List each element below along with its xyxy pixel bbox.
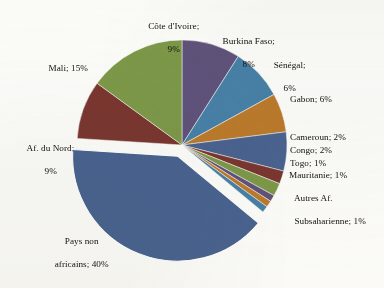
slice-label-mauritanie: Mauritanie; 1% bbox=[289, 170, 384, 181]
slice-label-af-du-nord: Af. du Nord; 9% bbox=[2, 132, 90, 189]
slice-label-mali: Mali; 15% bbox=[2, 63, 88, 74]
slice-label-pays-non-africains-line1: Pays non bbox=[65, 236, 99, 246]
slice-label-autres-af-line2: Subsaharienne; 1% bbox=[294, 216, 366, 226]
slice-label-cote-divoire-value: 9% bbox=[168, 44, 180, 54]
slice-label-togo: Togo; 1% bbox=[290, 158, 384, 169]
slice-label-pays-non-africains: Pays non africains; 40% bbox=[30, 225, 124, 282]
slice-label-af-du-nord-name: Af. du Nord; bbox=[27, 143, 75, 153]
slice-label-gabon: Gabon; 6% bbox=[290, 94, 382, 105]
pie-chart-figure: Côte d'Ivoire; 9% Burkina Faso; 8% Sénég… bbox=[0, 0, 384, 288]
slice-label-autres-af-line1: Autres Af. bbox=[294, 193, 333, 203]
slice-label-senegal-value: 6% bbox=[284, 83, 296, 93]
slice-label-af-du-nord-value: 9% bbox=[45, 166, 57, 176]
slice-label-pays-non-africains-line2: africains; 40% bbox=[55, 259, 109, 269]
slice-label-autres-af-subsaharienne: Autres Af. Subsaharienne; 1% bbox=[285, 182, 384, 239]
slice-label-burkina-faso-name: Burkina Faso; bbox=[222, 36, 274, 46]
slice-label-congo: Congo; 2% bbox=[290, 145, 384, 156]
slice-label-cote-divoire-name: Côte d'Ivoire; bbox=[148, 21, 199, 31]
slice-label-senegal-name: Sénégal; bbox=[274, 60, 306, 70]
slice-label-cameroun: Cameroun; 2% bbox=[290, 132, 384, 143]
